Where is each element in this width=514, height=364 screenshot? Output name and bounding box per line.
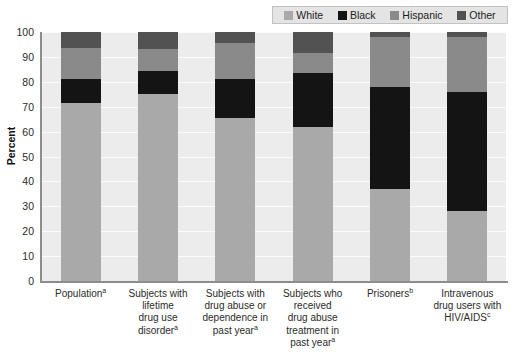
x-tick-label-line: Intravenous: [429, 288, 506, 300]
bar-segment-white[interactable]: [61, 103, 101, 281]
bar-segment-hispanic[interactable]: [370, 37, 410, 87]
x-tick-label: Subjects withdrug abuse ordependence inp…: [197, 288, 274, 337]
legend-item-label: White: [296, 10, 323, 20]
chart-legend: WhiteBlackHispanicOther: [272, 6, 508, 24]
bar-group[interactable]: [215, 32, 255, 281]
y-tick-label: 40: [0, 176, 34, 186]
x-tick-label-footnote: a: [331, 335, 335, 342]
x-tick-label-line: past yeara: [274, 337, 351, 349]
bar-segment-white[interactable]: [215, 118, 255, 281]
x-tick-label: Populationa: [42, 288, 119, 300]
stacked-bar[interactable]: [447, 32, 487, 281]
bar-segment-black[interactable]: [215, 79, 255, 118]
legend-item-label: Black: [350, 10, 376, 20]
stacked-bar[interactable]: [370, 32, 410, 281]
bar-segment-black[interactable]: [370, 87, 410, 189]
x-tick-label-line: drug use: [119, 312, 196, 324]
bar-group[interactable]: [61, 32, 101, 281]
legend-swatch-icon: [390, 11, 399, 20]
legend-item-label: Hispanic: [402, 10, 442, 20]
y-tick-label: 10: [0, 251, 34, 261]
x-tick-label-line: HIV/AIDSc: [429, 312, 506, 324]
bar-segment-hispanic[interactable]: [215, 43, 255, 79]
bar-segment-black[interactable]: [138, 71, 178, 95]
x-axis-line: [40, 281, 508, 283]
x-tick-label-line: past yeara: [197, 325, 274, 337]
y-tick-label: 30: [0, 201, 34, 211]
x-tick-label-line: drug abuse or: [197, 300, 274, 312]
legend-item-hispanic[interactable]: Hispanic: [390, 10, 442, 20]
x-tick-label-line: drug abuse: [274, 312, 351, 324]
legend-item-white[interactable]: White: [284, 10, 323, 20]
bar-segment-hispanic[interactable]: [61, 48, 101, 79]
stacked-bar[interactable]: [138, 32, 178, 281]
bar-segment-other[interactable]: [61, 32, 101, 48]
bar-segment-other[interactable]: [215, 32, 255, 43]
x-tick-label-line: lifetime: [119, 300, 196, 312]
bar-segment-other[interactable]: [138, 32, 178, 49]
stacked-bar[interactable]: [293, 32, 333, 281]
x-tick-label-line: Subjects who: [274, 288, 351, 300]
x-tick-label-footnote: a: [254, 323, 258, 330]
x-tick-label-line: treatment in: [274, 325, 351, 337]
x-axis-tick-labels: PopulationaSubjects withlifetimedrug use…: [42, 288, 506, 362]
y-tick-label: 90: [0, 52, 34, 62]
x-tick-label: Prisonersb: [351, 288, 428, 300]
y-tick-label: 100: [0, 27, 34, 37]
x-tick-label-line: Subjects with: [119, 288, 196, 300]
x-tick-label: Subjects whoreceiveddrug abusetreatment …: [274, 288, 351, 349]
bar-group[interactable]: [370, 32, 410, 281]
x-tick-label-footnote: a: [102, 287, 106, 294]
legend-item-other[interactable]: Other: [457, 10, 495, 20]
bar-segment-white[interactable]: [293, 127, 333, 281]
x-tick-label-line: Populationa: [42, 288, 119, 300]
y-tick-label: 20: [0, 226, 34, 236]
x-tick-label-line: disordera: [119, 325, 196, 337]
bar-group[interactable]: [138, 32, 178, 281]
bar-segment-hispanic[interactable]: [293, 53, 333, 73]
x-tick-label: Intravenousdrug users withHIV/AIDSc: [429, 288, 506, 325]
bar-segment-hispanic[interactable]: [138, 49, 178, 70]
bar-segment-black[interactable]: [61, 79, 101, 103]
x-tick-label-line: received: [274, 300, 351, 312]
legend-swatch-icon: [457, 11, 466, 20]
bar-series-container: [42, 32, 506, 281]
bar-group[interactable]: [293, 32, 333, 281]
bar-segment-black[interactable]: [447, 92, 487, 212]
bar-segment-white[interactable]: [138, 94, 178, 281]
stacked-bar[interactable]: [215, 32, 255, 281]
x-tick-label: Subjects withlifetimedrug usedisordera: [119, 288, 196, 337]
y-axis-title: Percent: [5, 116, 17, 176]
bar-segment-other[interactable]: [293, 32, 333, 53]
y-tick-label: 70: [0, 102, 34, 112]
x-tick-label-footnote: a: [174, 323, 178, 330]
x-tick-label-line: Subjects with: [197, 288, 274, 300]
bar-group[interactable]: [447, 32, 487, 281]
x-tick-label-footnote: c: [487, 311, 491, 318]
legend-item-black[interactable]: Black: [338, 10, 376, 20]
legend-swatch-icon: [338, 11, 347, 20]
x-tick-label-line: drug users with: [429, 300, 506, 312]
y-tick-label: 0: [0, 276, 34, 286]
y-tick-label: 80: [0, 77, 34, 87]
bar-segment-hispanic[interactable]: [447, 37, 487, 92]
legend-swatch-icon: [284, 11, 293, 20]
bar-segment-white[interactable]: [370, 189, 410, 281]
x-tick-label-line: Prisonersb: [351, 288, 428, 300]
legend-item-label: Other: [469, 10, 495, 20]
bar-segment-black[interactable]: [293, 73, 333, 127]
bar-segment-white[interactable]: [447, 211, 487, 281]
x-tick-label-line: dependence in: [197, 312, 274, 324]
stacked-bar[interactable]: [61, 32, 101, 281]
x-tick-label-footnote: b: [409, 287, 413, 294]
